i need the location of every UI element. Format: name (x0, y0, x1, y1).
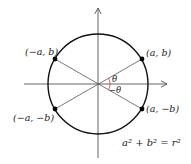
angle-arc-theta (108, 78, 110, 84)
label-a-b: (a, b) (146, 47, 171, 58)
angle-label-neg-theta: −θ (109, 85, 121, 95)
label-a-neg-b: (a, −b) (146, 103, 179, 114)
equation: a² + b² = r² (122, 137, 181, 148)
label-neg-a-neg-b: (−a, −b) (13, 112, 54, 123)
angle-label-theta: θ (112, 74, 117, 84)
label-neg-a-b: (−a, b) (25, 46, 58, 57)
point-neg-a-b (53, 57, 58, 62)
point-a-b (140, 57, 145, 62)
circle-symmetry-diagram: θ −θ (a, b) (−a, b) (−a, −b) (a, −b) a² … (0, 0, 191, 164)
point-a-neg-b (140, 107, 145, 112)
point-neg-a-neg-b (53, 107, 58, 112)
